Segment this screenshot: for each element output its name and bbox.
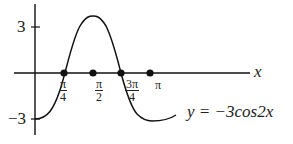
x-tick-pi-over-2: π 2 (95, 78, 103, 103)
x-tick-3pi-over-4: 3π 4 (125, 78, 139, 103)
fraction-denominator: 4 (60, 91, 66, 103)
cosine-graph (0, 0, 293, 144)
point-pi-over-2 (89, 69, 96, 76)
point-pi (146, 69, 153, 76)
point-3pi-over-4 (117, 69, 124, 76)
y-tick-label-3: 3 (17, 18, 26, 35)
curve-y-neg3cos2x (35, 16, 176, 121)
x-axis-label: x (254, 63, 262, 80)
x-tick-pi-over-4: π 4 (59, 78, 67, 103)
x-tick-pi: π (155, 79, 161, 91)
y-tick-label-neg3: −3 (8, 110, 26, 127)
equation-label: y = −3cos2x (187, 103, 273, 120)
fraction-denominator: 2 (96, 91, 102, 103)
fraction-denominator: 4 (129, 91, 135, 103)
point-pi-over-4 (60, 69, 67, 76)
